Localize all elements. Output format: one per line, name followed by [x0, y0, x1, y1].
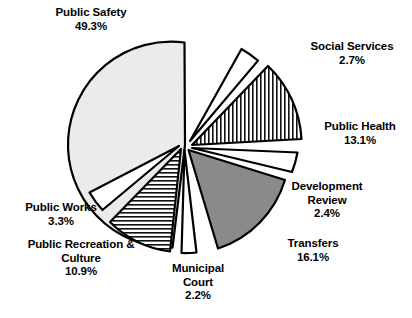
pie-label-development-review-name: Development [291, 180, 362, 192]
pie-label-municipal-court-percent: 2.2% [155, 289, 241, 303]
pie-label-transfers-name: Transfers [288, 237, 339, 249]
pie-label-public-recreation-culture: Public Recreation & Culture 10.9% [6, 238, 156, 279]
pie-slice-public-health[interactable] [192, 66, 302, 145]
pie-label-municipal-court: Municipal Court 2.2% [155, 262, 241, 303]
pie-label-public-works: Public Works 3.3% [6, 201, 116, 228]
pie-label-public-works-name: Public Works [25, 201, 96, 213]
pie-label-public-recreation-culture-name2: Culture [6, 252, 156, 266]
pie-label-public-health-name: Public Health [324, 120, 396, 132]
pie-label-public-recreation-culture-percent: 10.9% [6, 265, 156, 279]
pie-label-transfers: Transfers 16.1% [265, 237, 361, 264]
pie-label-development-review: Development Review 2.4% [275, 180, 379, 221]
pie-label-municipal-court-name: Municipal [172, 262, 224, 274]
pie-label-development-review-name2: Review [275, 194, 379, 208]
pie-label-public-recreation-culture-name: Public Recreation & [28, 238, 135, 250]
pie-label-social-services-percent: 2.7% [297, 54, 407, 68]
pie-label-public-safety-percent: 49.3% [31, 20, 151, 34]
pie-label-public-works-percent: 3.3% [6, 215, 116, 229]
pie-label-social-services: Social Services 2.7% [297, 40, 407, 67]
pie-label-public-health: Public Health 13.1% [312, 120, 408, 147]
pie-chart-page: Public Safety 49.3% Social Services 2.7%… [0, 0, 412, 318]
pie-label-public-safety: Public Safety 49.3% [31, 6, 151, 33]
pie-label-development-review-percent: 2.4% [275, 207, 379, 221]
pie-label-public-safety-name: Public Safety [56, 6, 127, 18]
pie-label-public-health-percent: 13.1% [312, 134, 408, 148]
pie-label-municipal-court-name2: Court [155, 276, 241, 290]
pie-label-social-services-name: Social Services [311, 40, 394, 52]
pie-label-transfers-percent: 16.1% [265, 251, 361, 265]
